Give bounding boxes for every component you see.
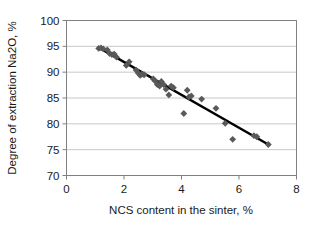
x-axis-title: NCS content in the sinter, % <box>109 204 253 216</box>
scatter-chart: 707580859095100 02468 NCS content in the… <box>0 0 314 225</box>
y-axis-tick-labels: 707580859095100 <box>40 15 59 182</box>
y-tick-label-80: 80 <box>47 118 60 130</box>
x-tick-label-8: 8 <box>293 183 299 195</box>
x-axis-tick-labels: 02468 <box>63 183 299 195</box>
y-tick-label-90: 90 <box>47 66 60 78</box>
y-tick-label-75: 75 <box>47 144 60 156</box>
x-axis-ticks <box>67 176 297 180</box>
x-tick-label-6: 6 <box>236 183 242 195</box>
x-tick-label-0: 0 <box>63 183 69 195</box>
y-axis-title: Degree of extraction Na2O, % <box>6 21 18 174</box>
y-tick-label-100: 100 <box>40 15 59 27</box>
y-tick-label-70: 70 <box>47 170 60 182</box>
chart-container: 707580859095100 02468 NCS content in the… <box>0 0 314 225</box>
y-tick-label-95: 95 <box>47 40 60 52</box>
y-tick-label-85: 85 <box>47 92 60 104</box>
x-tick-label-2: 2 <box>121 183 127 195</box>
x-tick-label-4: 4 <box>178 183 185 195</box>
